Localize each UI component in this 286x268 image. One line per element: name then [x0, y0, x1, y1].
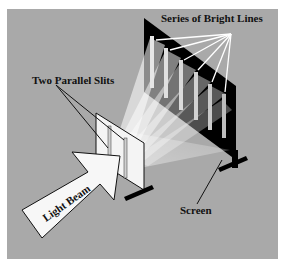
label-bright-lines: Series of Bright Lines	[161, 12, 263, 24]
label-screen: Screen	[180, 204, 212, 216]
label-slits: Two Parallel Slits	[32, 74, 115, 86]
double-slit-diagram: Series of Bright Lines Two Parallel Slit…	[0, 0, 286, 268]
slit-2	[124, 138, 127, 178]
